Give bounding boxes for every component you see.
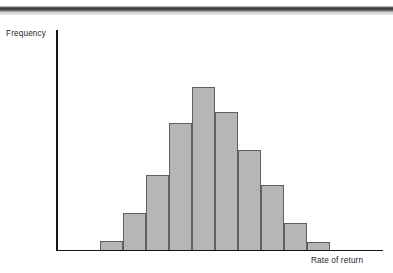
bar-9 [284,223,307,250]
histogram-bars [0,0,393,273]
bar-2 [123,213,146,250]
bar-10 [307,242,330,250]
bar-8 [261,185,284,250]
bar-1 [100,241,123,250]
plot-area: Frequency Rate of return [0,0,393,273]
histogram-figure: Frequency Rate of return [0,0,393,273]
bar-7 [238,150,261,250]
bar-4 [169,123,192,250]
bar-6 [215,112,238,250]
bar-3 [146,175,169,250]
bar-5 [192,87,215,250]
